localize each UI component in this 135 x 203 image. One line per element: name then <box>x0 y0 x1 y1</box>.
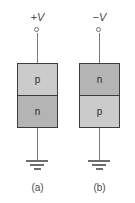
pn-junction-figure: +V p n (a) −V n p <box>0 0 135 203</box>
ground-bar-2-b <box>92 164 106 166</box>
region-bottom-a: n <box>18 96 57 127</box>
ground-bar-1-a <box>26 160 48 162</box>
lead-wire-top-b <box>99 33 100 63</box>
diagram-panel-a: +V p n (a) <box>4 0 71 203</box>
lead-wire-top-a <box>37 33 38 63</box>
panel-caption-b: (b) <box>66 182 133 194</box>
ground-bar-3-b <box>96 168 103 170</box>
lead-wire-bottom-a <box>37 128 38 161</box>
supply-voltage-label-a: +V <box>4 11 71 23</box>
semiconductor-device-b: n p <box>79 63 120 128</box>
region-top-label-b: n <box>97 75 103 85</box>
supply-voltage-label-b: −V <box>66 11 133 23</box>
region-bottom-b: p <box>80 96 119 127</box>
region-bottom-label-a: n <box>35 107 41 117</box>
terminal-circle-icon-b <box>96 27 101 32</box>
semiconductor-device-a: p n <box>17 63 58 128</box>
terminal-circle-icon-a <box>34 27 39 32</box>
diagram-panel-b: −V n p (b) <box>66 0 133 203</box>
ground-bar-2-a <box>30 164 44 166</box>
region-bottom-label-b: p <box>97 107 103 117</box>
lead-wire-bottom-b <box>99 128 100 161</box>
ground-bar-3-a <box>34 168 41 170</box>
ground-bar-1-b <box>88 160 110 162</box>
region-top-label-a: p <box>35 75 41 85</box>
region-top-a: p <box>18 64 57 96</box>
region-top-b: n <box>80 64 119 96</box>
panel-caption-a: (a) <box>4 182 71 194</box>
